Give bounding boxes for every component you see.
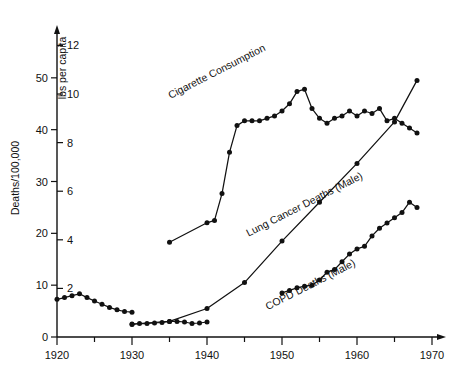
series-marker	[235, 123, 240, 128]
left-axis-tick-label: 0	[42, 331, 48, 343]
series-marker	[392, 215, 397, 220]
dual-axis-line-chart: 0102030405024681012192019301940195019601…	[0, 0, 452, 372]
series-marker	[362, 244, 367, 249]
series-marker	[70, 293, 75, 298]
series-marker	[92, 299, 97, 304]
series-marker	[385, 118, 390, 123]
series-marker	[407, 126, 412, 131]
right-axis-tick-label: 4	[67, 234, 73, 246]
series-marker	[280, 239, 285, 244]
series-marker	[355, 113, 360, 118]
series-marker	[287, 101, 292, 106]
series-marker	[385, 221, 390, 226]
series-marker	[415, 130, 420, 135]
series-marker	[130, 310, 135, 315]
series-marker	[55, 297, 60, 302]
x-axis-tick-label: 1930	[120, 349, 144, 361]
series-marker	[272, 113, 277, 118]
x-axis-arrow-icon	[437, 334, 446, 340]
series-marker	[85, 295, 90, 300]
series-group	[55, 78, 420, 327]
series-marker	[190, 321, 195, 326]
right-axis-tick-label: 6	[67, 185, 73, 197]
series-3	[280, 200, 420, 296]
series-marker	[347, 109, 352, 114]
series-marker	[137, 321, 142, 326]
series-marker	[332, 116, 337, 121]
series-marker	[227, 150, 232, 155]
series-marker	[250, 118, 255, 123]
left-axis-tick-label: 20	[36, 227, 48, 239]
series-marker	[122, 309, 127, 314]
x-axis-tick-label: 1970	[420, 349, 444, 361]
series-marker	[62, 295, 67, 300]
axes-group: 0102030405024681012192019301940195019601…	[36, 25, 446, 361]
series-marker	[415, 205, 420, 210]
series-label: Cigarette Consumption	[166, 41, 267, 101]
chart-container: 0102030405024681012192019301940195019601…	[0, 0, 452, 372]
series-marker	[242, 118, 247, 123]
series-marker	[242, 280, 247, 285]
series-1	[167, 87, 420, 245]
series-marker	[377, 106, 382, 111]
series-marker	[370, 111, 375, 116]
series-marker	[212, 218, 217, 223]
left-axis-tick-label: 50	[36, 72, 48, 84]
series-marker	[115, 307, 120, 312]
right-axis-tick-label: 12	[67, 39, 79, 51]
series-marker	[152, 321, 157, 326]
series-marker	[310, 106, 315, 111]
left-axis-tick-label: 40	[36, 124, 48, 136]
series-marker	[355, 161, 360, 166]
right-axis-tick-label: 8	[67, 137, 73, 149]
series-marker	[107, 305, 112, 310]
series-marker	[400, 121, 405, 126]
series-line	[282, 202, 417, 293]
left-axis-title: Deaths/100,000	[9, 141, 21, 215]
series-marker	[415, 78, 420, 83]
x-axis-tick-label: 1940	[195, 349, 219, 361]
series-5	[130, 319, 210, 327]
x-axis-tick-label: 1920	[45, 349, 69, 361]
series-marker	[295, 89, 300, 94]
series-marker	[325, 121, 330, 126]
series-marker	[265, 116, 270, 121]
series-marker	[205, 320, 210, 325]
series-label: Lung Cancer Deaths (Male)	[244, 169, 364, 238]
series-marker	[77, 291, 82, 296]
series-marker	[205, 220, 210, 225]
series-marker	[407, 200, 412, 205]
series-marker	[205, 306, 210, 311]
series-marker	[130, 322, 135, 327]
series-labels-group: Cigarette ConsumptionLung Cancer Deaths …	[166, 41, 365, 312]
series-marker	[280, 109, 285, 114]
series-marker	[257, 118, 262, 123]
series-marker	[100, 302, 105, 307]
series-marker	[197, 321, 202, 326]
y-axis-arrow-icon	[54, 25, 60, 34]
series-marker	[392, 119, 397, 124]
series-marker	[167, 319, 172, 324]
series-4	[55, 291, 135, 314]
series-line	[170, 89, 418, 242]
series-marker	[160, 320, 165, 325]
left-axis-tick-label: 10	[36, 279, 48, 291]
left-axis-tick-label: 30	[36, 176, 48, 188]
right-axis-tick-label: 10	[67, 88, 79, 100]
series-marker	[340, 113, 345, 118]
series-marker	[317, 116, 322, 121]
series-marker	[145, 321, 150, 326]
series-label: COPD Deaths (Male)	[263, 256, 357, 312]
series-marker	[175, 319, 180, 324]
series-marker	[182, 320, 187, 325]
series-marker	[220, 191, 225, 196]
series-marker	[400, 210, 405, 215]
x-axis-tick-label: 1960	[345, 349, 369, 361]
series-marker	[362, 109, 367, 114]
x-axis-tick-label: 1950	[270, 349, 294, 361]
series-marker	[370, 233, 375, 238]
series-marker	[377, 226, 382, 231]
right-axis-title: lbs per capita	[56, 37, 68, 100]
series-marker	[167, 240, 172, 245]
series-marker	[302, 87, 307, 92]
